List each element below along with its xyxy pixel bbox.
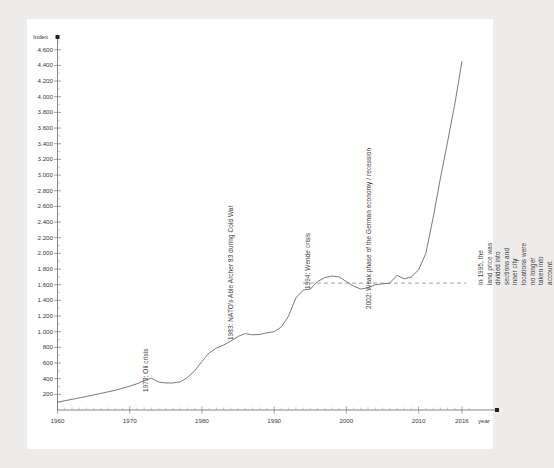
y-tick-label: 3.400	[24, 140, 53, 147]
x-tick-label: 2010	[405, 417, 433, 424]
y-tick-label: 800	[24, 343, 53, 350]
y-tick-label: 4.400	[24, 61, 53, 68]
annotation-land-price-note-line2: locations were no longer taken into acco…	[520, 241, 554, 285]
y-tick-label: 3.600	[24, 124, 53, 131]
data-series-line	[58, 61, 462, 402]
y-tick-label: 1.000	[24, 328, 53, 335]
annotation-land-price-note: In 1995, the land price was divided into…	[477, 241, 554, 285]
y-tick-label: 2.600	[24, 202, 53, 209]
y-tick-label: 4.200	[24, 77, 53, 84]
x-minor-ticks	[65, 408, 469, 411]
x-axis-arrow	[495, 408, 499, 412]
y-tick-label: 2.400	[24, 218, 53, 225]
y-tick-label: 400	[24, 375, 53, 382]
y-tick-label: 4.000	[24, 93, 53, 100]
annotation-oil-crisis: 1973: Oil crisis	[143, 348, 150, 392]
y-tick-label: 2.800	[24, 187, 53, 194]
y-axis-arrow	[56, 35, 60, 39]
x-tick-label: 1990	[260, 417, 288, 424]
annotation-able-archer: 1983: NATO's Able Archer 83 during Cold …	[228, 205, 235, 340]
y-axis-title: Index	[33, 33, 48, 40]
y-tick-label: 2.200	[24, 234, 53, 241]
x-tick-label: 1980	[188, 417, 216, 424]
x-axis-title: year	[478, 417, 490, 424]
y-tick-label: 4.600	[24, 46, 53, 53]
x-tick-label: 2016	[448, 417, 476, 424]
y-tick-label: 1.200	[24, 312, 53, 319]
y-tick-label: 3.000	[24, 171, 53, 178]
x-tick-label: 1960	[44, 417, 72, 424]
y-tick-label: 1.400	[24, 296, 53, 303]
y-tick-label: 1.800	[24, 265, 53, 272]
y-tick-label: 3.800	[24, 108, 53, 115]
y-tick-label: 1.600	[24, 281, 53, 288]
annotation-german-economy: 2002: Weak phase of the German economy /…	[366, 148, 373, 309]
y-tick-label: 3.200	[24, 155, 53, 162]
y-tick-label: 200	[24, 390, 53, 397]
x-tick-label: 1970	[116, 417, 144, 424]
y-tick-label: 2.000	[24, 249, 53, 256]
annotation-wende-crisis: 1994: Wende crisis	[305, 233, 312, 289]
y-tick-label: 600	[24, 359, 53, 366]
annotation-land-price-note-line1: In 1995, the land price was divided into…	[477, 241, 520, 285]
x-tick-label: 2000	[332, 417, 360, 424]
